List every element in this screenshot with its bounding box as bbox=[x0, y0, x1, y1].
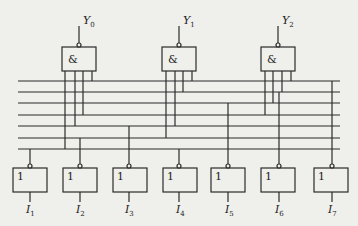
output-label-y0: Y0 bbox=[83, 14, 95, 29]
not-symbol-i5: 1 bbox=[215, 170, 222, 183]
not-symbol-i3: 1 bbox=[117, 170, 124, 183]
not-symbol-i4: 1 bbox=[167, 170, 174, 183]
input-label-i3: I3 bbox=[124, 203, 134, 218]
output-label-y2: Y2 bbox=[282, 14, 294, 29]
encoder-circuit-diagram: & & & 1 1 1 1 1 1 1 Y0 Y1 Y2 I1 I2 I3 I4… bbox=[0, 0, 358, 226]
input-label-i6: I6 bbox=[274, 203, 284, 218]
not-gate-i5 bbox=[211, 103, 245, 202]
and-gate-y1 bbox=[162, 26, 196, 138]
not-gate-i7 bbox=[314, 81, 348, 202]
not-symbol-i1: 1 bbox=[17, 170, 24, 183]
not-symbol-i2: 1 bbox=[67, 170, 74, 183]
input-label-i5: I5 bbox=[224, 203, 234, 218]
input-label-i1: I1 bbox=[25, 203, 35, 218]
and-symbol-y2: & bbox=[267, 53, 277, 66]
input-label-i2: I2 bbox=[75, 203, 85, 218]
input-label-i4: I4 bbox=[175, 203, 185, 218]
input-label-i7: I7 bbox=[327, 203, 337, 218]
not-symbol-i7: 1 bbox=[318, 170, 325, 183]
and-symbol-y0: & bbox=[68, 53, 78, 66]
output-label-y1: Y1 bbox=[183, 14, 195, 29]
bus-lines bbox=[18, 81, 340, 149]
not-gate-i6 bbox=[261, 92, 295, 202]
and-gate-y2 bbox=[261, 26, 295, 115]
and-gate-y0 bbox=[62, 26, 96, 149]
not-symbol-i6: 1 bbox=[265, 170, 272, 183]
and-symbol-y1: & bbox=[168, 53, 178, 66]
